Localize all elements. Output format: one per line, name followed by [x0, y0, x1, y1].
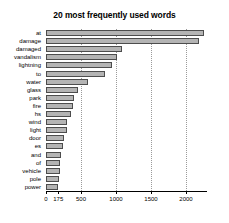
- bar-lightning[interactable]: [46, 62, 112, 68]
- bar-hs[interactable]: [46, 111, 71, 117]
- x-tick-mark: [116, 191, 117, 194]
- bar-to[interactable]: [46, 71, 105, 77]
- bar-row[interactable]: [46, 38, 207, 44]
- bar-door[interactable]: [46, 135, 64, 141]
- x-tick-label-1500: 1500: [144, 196, 157, 202]
- bar-water[interactable]: [46, 79, 88, 85]
- bar-row[interactable]: [46, 62, 207, 68]
- x-tick-mark: [58, 191, 59, 194]
- y-tick-label-to: to: [36, 71, 41, 77]
- bar-row[interactable]: [46, 54, 207, 60]
- y-tick-label-lightning: lightning: [19, 62, 41, 68]
- bar-power[interactable]: [46, 184, 58, 190]
- bar-row[interactable]: [46, 127, 207, 133]
- bar-row[interactable]: [46, 46, 207, 52]
- y-tick-label-glass: glass: [27, 87, 41, 93]
- bar-and[interactable]: [46, 152, 61, 158]
- y-tick-label-of: of: [36, 160, 41, 166]
- bar-row[interactable]: [46, 111, 207, 117]
- bar-row[interactable]: [46, 95, 207, 101]
- y-tick-label-vehicle: vehicle: [22, 168, 41, 174]
- x-tick-mark: [46, 191, 47, 194]
- bar-fire[interactable]: [46, 103, 73, 109]
- bar-row[interactable]: [46, 168, 207, 174]
- bar-row[interactable]: [46, 135, 207, 141]
- bar-es[interactable]: [46, 143, 63, 149]
- y-tick-label-power: power: [25, 184, 41, 190]
- y-tick-label-damaged: damaged: [16, 46, 41, 52]
- x-tick-mark: [151, 191, 152, 194]
- bar-row[interactable]: [46, 119, 207, 125]
- bar-wind[interactable]: [46, 119, 67, 125]
- bar-row[interactable]: [46, 103, 207, 109]
- bar-row[interactable]: [46, 143, 207, 149]
- bar-row[interactable]: [46, 87, 207, 93]
- y-tick-label-light: light: [30, 127, 41, 133]
- bar-row[interactable]: [46, 160, 207, 166]
- bar-row[interactable]: [46, 152, 207, 158]
- y-tick-label-pole: pole: [30, 176, 41, 182]
- x-tick-label-175: 175: [53, 196, 63, 202]
- x-axis-line: [46, 191, 207, 192]
- y-tick-label-and: and: [31, 152, 41, 158]
- x-tick-label-0: 0: [44, 196, 47, 202]
- x-tick-mark: [186, 191, 187, 194]
- bar-damaged[interactable]: [46, 46, 122, 52]
- plot-area: [46, 29, 207, 191]
- y-tick-label-vandalism: vandalism: [14, 54, 41, 60]
- bar-pole[interactable]: [46, 176, 59, 182]
- x-tick-label-500: 500: [76, 196, 86, 202]
- y-tick-label-fire: fire: [33, 103, 41, 109]
- x-tick-mark: [81, 191, 82, 194]
- y-tick-label-water: water: [26, 79, 41, 85]
- bar-of[interactable]: [46, 160, 60, 166]
- bar-vehicle[interactable]: [46, 168, 60, 174]
- y-tick-label-es: es: [35, 143, 41, 149]
- bar-series: [46, 29, 207, 191]
- chart-title: 20 most frequently used words: [0, 10, 229, 20]
- bar-vandalism[interactable]: [46, 54, 117, 60]
- bar-row[interactable]: [46, 30, 207, 36]
- x-tick-label-1000: 1000: [109, 196, 122, 202]
- bar-chart-figure: 20 most frequently used words atdamageda…: [0, 0, 229, 223]
- y-tick-label-at: at: [36, 30, 41, 36]
- bar-row[interactable]: [46, 184, 207, 190]
- bar-light[interactable]: [46, 127, 67, 133]
- bar-row[interactable]: [46, 176, 207, 182]
- y-tick-label-door: door: [29, 135, 41, 141]
- bar-at[interactable]: [46, 30, 204, 36]
- y-tick-label-damage: damage: [19, 38, 41, 44]
- y-tick-label-wind: wind: [29, 119, 41, 125]
- bar-row[interactable]: [46, 71, 207, 77]
- bar-damage[interactable]: [46, 38, 199, 44]
- y-tick-label-hs: hs: [35, 111, 41, 117]
- x-tick-label-2000: 2000: [179, 196, 192, 202]
- y-tick-label-park: park: [29, 95, 41, 101]
- bar-park[interactable]: [46, 95, 74, 101]
- bar-row[interactable]: [46, 79, 207, 85]
- bar-glass[interactable]: [46, 87, 78, 93]
- y-axis: atdamagedamagedvandalismlightningtowater…: [0, 29, 44, 191]
